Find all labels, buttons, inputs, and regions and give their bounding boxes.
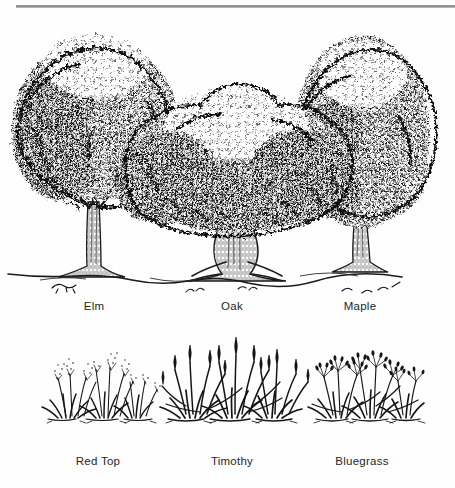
tree-label-elm: Elm [84, 300, 105, 312]
grass-timothy [160, 337, 309, 423]
grass-scene-svg [0, 340, 455, 435]
grass-label-red-top: Red Top [76, 455, 120, 467]
grass-illustration [0, 340, 455, 435]
tree-illustration [0, 12, 455, 292]
tree-label-maple: Maple [344, 300, 377, 312]
top-divider-rule [16, 5, 455, 8]
grass-label-timothy: Timothy [211, 455, 253, 467]
tree-scene-svg [0, 12, 455, 292]
grass-label-bluegrass: Bluegrass [335, 455, 388, 467]
illustration-plate: Elm Oak Maple [0, 0, 455, 488]
tree-label-oak: Oak [221, 300, 243, 312]
grass-bluegrass [308, 350, 425, 423]
grass-red-top [42, 352, 161, 423]
